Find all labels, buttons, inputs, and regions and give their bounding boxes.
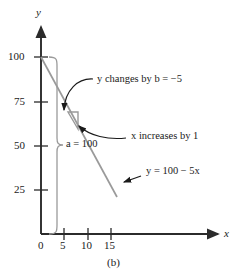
x-tick-label-0: 0 xyxy=(38,240,44,251)
y-tick-label-25: 25 xyxy=(14,184,25,195)
annotation-intercept: a = 100 xyxy=(66,139,98,150)
plot-canvas xyxy=(0,0,238,277)
callout-arrow-y-change xyxy=(64,79,93,110)
y-tick-label-75: 75 xyxy=(14,96,25,107)
x-tick-label-15: 15 xyxy=(104,240,115,251)
y-tick-label-100: 100 xyxy=(8,51,25,62)
callout-arrow-x-increase xyxy=(79,126,126,139)
x-tick-label-5: 5 xyxy=(60,240,66,251)
callout-arrow-equation xyxy=(124,176,141,182)
annotation-y-change: y changes by b = −5 xyxy=(97,74,182,85)
x-axis-label: x xyxy=(224,228,229,239)
y-tick-label-50: 50 xyxy=(14,140,25,151)
x-tick-label-10: 10 xyxy=(81,240,92,251)
annotation-x-increase: x increases by 1 xyxy=(131,131,198,142)
figure-container: 100 75 50 25 0 5 10 15 y x y changes by … xyxy=(0,0,238,277)
annotation-equation: y = 100 − 5x xyxy=(146,166,200,177)
y-axis-label: y xyxy=(36,7,41,18)
figure-caption: (b) xyxy=(107,257,120,268)
